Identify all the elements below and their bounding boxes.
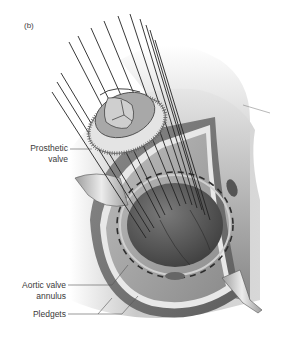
- label-prosthetic-valve: Prosthetic valve: [10, 143, 68, 165]
- label-line: Aortic valve: [8, 280, 66, 291]
- prosthetic-valve-implantation-figure: (b) Prosthetic valve Aortic valve annulu…: [0, 0, 285, 338]
- label-line: Prosthetic: [10, 143, 68, 154]
- annulus-lumen: [127, 183, 223, 267]
- label-pledgets: Pledgets: [8, 309, 66, 320]
- label-line: valve: [10, 154, 68, 165]
- label-aortic-valve-annulus: Aortic valve annulus: [8, 280, 66, 302]
- label-line: annulus: [8, 291, 66, 302]
- coronary-ostium: [165, 272, 185, 280]
- panel-label: (b): [24, 21, 34, 30]
